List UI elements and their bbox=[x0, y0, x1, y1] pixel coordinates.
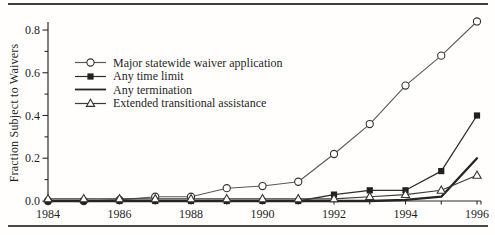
axes bbox=[48, 22, 481, 201]
x-tick-label: 1986 bbox=[108, 207, 132, 221]
legend-marker-circle-icon bbox=[74, 57, 107, 68]
legend: Major statewide waiver application Any t… bbox=[74, 56, 283, 110]
legend-item-major-statewide: Major statewide waiver application bbox=[74, 56, 283, 70]
y-tick-label: 0.8 bbox=[25, 23, 40, 37]
plot-svg: 0.00.20.40.60.81984198619881990199219941… bbox=[0, 0, 495, 235]
series-major-statewide-waiver-application bbox=[44, 18, 480, 205]
legend-item-any-termination: Any termination bbox=[74, 83, 283, 97]
legend-marker-square-icon bbox=[74, 71, 107, 82]
figure-waivers-chart: Fraction Subject to Waivers 0.00.20.40.6… bbox=[0, 0, 495, 235]
legend-item-extended-transitional: Extended transitional assistance bbox=[74, 97, 283, 111]
y-tick-label: 0.6 bbox=[25, 66, 40, 80]
legend-label: Extended transitional assistance bbox=[113, 97, 266, 109]
series-any-time-limit bbox=[45, 112, 480, 204]
legend-label: Any termination bbox=[113, 84, 192, 96]
x-tick-label: 1996 bbox=[465, 207, 489, 221]
x-tick-label: 1990 bbox=[251, 207, 275, 221]
legend-label: Major statewide waiver application bbox=[113, 57, 283, 69]
x-axis-tick-labels: 1984198619881990199219941996 bbox=[36, 207, 489, 221]
y-axis-ticks bbox=[43, 30, 49, 201]
y-axis-tick-labels: 0.00.20.40.60.8 bbox=[25, 23, 40, 208]
x-tick-label: 1984 bbox=[36, 207, 60, 221]
series-markers-any-time-limit bbox=[45, 112, 480, 204]
y-tick-label: 0.4 bbox=[25, 109, 40, 123]
series-markers-major-statewide-waiver-application bbox=[44, 18, 480, 205]
x-tick-label: 1994 bbox=[394, 207, 418, 221]
legend-item-any-time-limit: Any time limit bbox=[74, 70, 283, 84]
y-tick-label: 0.2 bbox=[25, 151, 40, 165]
legend-marker-line-icon bbox=[74, 84, 107, 95]
x-tick-label: 1988 bbox=[179, 207, 203, 221]
x-tick-label: 1992 bbox=[322, 207, 346, 221]
y-tick-label: 0.0 bbox=[25, 194, 40, 208]
legend-marker-triangle-icon bbox=[74, 98, 107, 109]
legend-label: Any time limit bbox=[113, 70, 184, 82]
